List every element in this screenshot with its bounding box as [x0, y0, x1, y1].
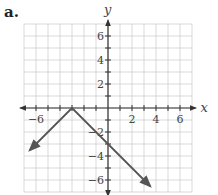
- x-axis-label: x: [201, 100, 209, 115]
- y-tick-label: −6: [88, 174, 104, 187]
- y-tick-label: 2: [97, 78, 104, 91]
- y-tick-label: −4: [88, 150, 104, 163]
- y-tick-label: 4: [97, 54, 104, 67]
- y-tick-label: 6: [97, 30, 104, 43]
- x-tick-label: −6: [28, 113, 44, 126]
- chart-plot: xy −6246642−2−4−6: [0, 0, 218, 195]
- y-axis-label: y: [103, 2, 112, 17]
- x-tick-label: 2: [129, 113, 136, 126]
- x-tick-label: 6: [177, 113, 184, 126]
- x-tick-label: 4: [153, 113, 160, 126]
